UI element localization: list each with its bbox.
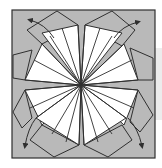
origami-diagram [0,0,162,168]
